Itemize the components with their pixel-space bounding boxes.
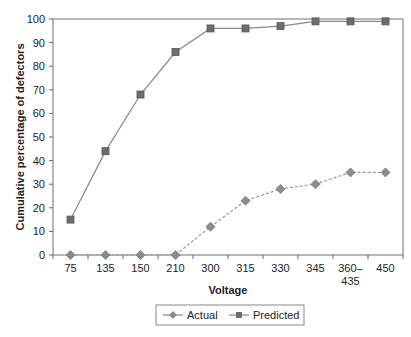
x-axis-title: Voltage (209, 284, 248, 296)
x-tick-label: 210 (166, 262, 184, 274)
y-tick-label: 70 (33, 84, 45, 96)
marker-square (102, 148, 109, 155)
marker-square (207, 25, 214, 32)
x-tick-label: 360– (338, 262, 363, 274)
legend-label-actual: Actual (187, 309, 218, 321)
marker-square (137, 91, 144, 98)
x-tick-label: 135 (96, 262, 114, 274)
y-tick-label: 0 (39, 249, 45, 261)
series-line-actual (71, 172, 386, 255)
marker-square (242, 25, 249, 32)
y-tick-label: 40 (33, 155, 45, 167)
plot-frame (53, 19, 403, 255)
x-tick-label: 315 (236, 262, 254, 274)
legend-marker-square (236, 312, 242, 318)
marker-square (312, 18, 319, 25)
marker-diamond (101, 251, 110, 260)
x-tick-label: 150 (131, 262, 149, 274)
marker-diamond (381, 168, 390, 177)
legend-label-predicted: Predicted (253, 309, 299, 321)
y-tick-label: 30 (33, 178, 45, 190)
y-tick-label: 10 (33, 225, 45, 237)
x-tick-label: 330 (271, 262, 289, 274)
y-axis-title: Cumulative percentage of defectors (14, 43, 26, 230)
x-tick-label: 75 (64, 262, 76, 274)
x-tick-label: 450 (376, 262, 394, 274)
marker-diamond (241, 196, 250, 205)
marker-square (172, 49, 179, 56)
marker-diamond (311, 180, 320, 189)
marker-square (277, 23, 284, 30)
marker-square (347, 18, 354, 25)
marker-diamond (66, 251, 75, 260)
y-tick-label: 80 (33, 60, 45, 72)
x-tick-label: 435 (341, 275, 359, 287)
x-tick-label: 300 (201, 262, 219, 274)
marker-square (382, 18, 389, 25)
y-tick-label: 50 (33, 131, 45, 143)
marker-square (67, 216, 74, 223)
y-tick-label: 100 (27, 13, 45, 25)
marker-diamond (346, 168, 355, 177)
y-tick-label: 90 (33, 37, 45, 49)
legend: ActualPredicted (156, 305, 304, 325)
y-tick-label: 60 (33, 107, 45, 119)
series-line-predicted (71, 21, 386, 219)
x-tick-label: 345 (306, 262, 324, 274)
marker-diamond (276, 184, 285, 193)
line-chart: 0102030405060708090100751351502103003153… (0, 0, 411, 337)
plot-area: 0102030405060708090100751351502103003153… (14, 13, 403, 296)
y-tick-label: 20 (33, 202, 45, 214)
marker-diamond (136, 251, 145, 260)
marker-diamond (171, 251, 180, 260)
